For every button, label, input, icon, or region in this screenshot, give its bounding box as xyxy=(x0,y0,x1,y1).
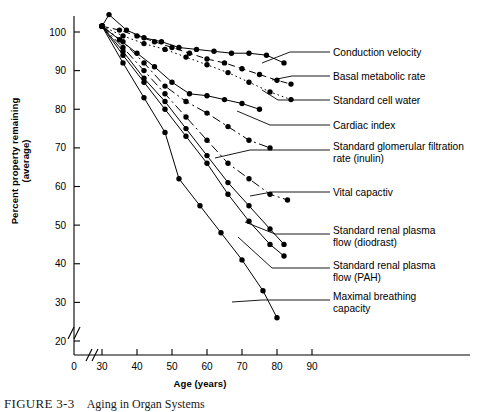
x-tick-label: 60 xyxy=(201,361,213,372)
series-leader-line xyxy=(215,150,330,158)
series-line xyxy=(102,26,284,244)
series-4 xyxy=(99,24,272,151)
series-label: Cardiac index xyxy=(333,120,395,131)
series-label: Maximal breathingcapacity xyxy=(333,291,417,315)
data-point xyxy=(239,66,244,71)
data-point xyxy=(120,39,125,44)
data-point xyxy=(246,203,251,208)
data-point xyxy=(169,80,174,85)
series-label: Standard renal plasmaflow (diodrast) xyxy=(333,225,436,249)
data-point xyxy=(239,257,244,262)
data-point xyxy=(204,62,209,67)
data-point xyxy=(211,49,216,54)
data-point xyxy=(183,126,188,131)
series-label: Vital capactiv xyxy=(333,187,394,198)
data-point xyxy=(267,242,272,247)
data-point xyxy=(225,192,230,197)
series-leader-line xyxy=(250,192,330,196)
y-axis-title: Percent property remaining (average) xyxy=(9,96,31,226)
data-point xyxy=(222,97,227,102)
data-point xyxy=(99,24,104,29)
series-leader-line xyxy=(238,237,330,268)
series-6 xyxy=(99,24,286,248)
data-point xyxy=(225,124,230,129)
data-point xyxy=(187,91,192,96)
x-tick-label: 40 xyxy=(131,361,143,372)
data-point xyxy=(162,91,167,96)
y-tick-label: 70 xyxy=(55,142,67,153)
y-tick-label: 100 xyxy=(49,27,66,38)
data-point xyxy=(141,68,146,73)
data-point xyxy=(162,99,167,104)
figure-caption-label: FIGURE 3-3 xyxy=(4,396,75,411)
series-leader-line xyxy=(272,76,330,80)
data-point xyxy=(281,60,286,65)
data-point xyxy=(152,39,157,44)
data-point xyxy=(141,35,146,40)
x-tick-label: 70 xyxy=(236,361,248,372)
x-tick-label: 80 xyxy=(271,361,283,372)
data-point xyxy=(204,93,209,98)
series-line xyxy=(102,15,284,63)
y-tick-label: 80 xyxy=(55,104,67,115)
data-point xyxy=(183,54,188,59)
data-point xyxy=(246,80,251,85)
data-point xyxy=(274,315,279,320)
series-label: Standard glomerular filtrationrate (inul… xyxy=(333,141,464,165)
data-point xyxy=(225,180,230,185)
data-point xyxy=(141,41,146,46)
series-line xyxy=(102,26,288,200)
data-point xyxy=(176,176,181,181)
data-point xyxy=(257,72,262,77)
data-point xyxy=(246,51,251,56)
data-point xyxy=(285,197,290,202)
data-point xyxy=(183,99,188,104)
data-point xyxy=(183,114,188,119)
data-point xyxy=(246,219,251,224)
data-point xyxy=(162,47,167,52)
data-point xyxy=(197,203,202,208)
data-point xyxy=(169,45,174,50)
data-point xyxy=(204,161,209,166)
data-point xyxy=(204,138,209,143)
data-point xyxy=(229,51,234,56)
figure-caption: FIGURE 3-3 Aging in Organ Systems xyxy=(4,396,205,412)
data-point xyxy=(281,242,286,247)
y-tick-label: 20 xyxy=(55,336,67,347)
x-tick-label: 0 xyxy=(71,361,77,372)
x-tick-label: 90 xyxy=(306,361,318,372)
data-point xyxy=(141,95,146,100)
x-tick-label: 50 xyxy=(166,361,178,372)
data-point xyxy=(141,60,146,65)
data-point xyxy=(288,81,293,86)
data-point xyxy=(225,70,230,75)
data-point xyxy=(239,101,244,106)
data-point xyxy=(225,161,230,166)
x-tick-label: 30 xyxy=(96,361,108,372)
series-7 xyxy=(99,24,286,259)
series-label: Standard cell water xyxy=(333,95,421,106)
x-axis-title: Age (years) xyxy=(120,378,280,389)
data-point xyxy=(246,138,251,143)
series-leader-line xyxy=(245,222,330,234)
y-tick-label: 40 xyxy=(55,258,67,269)
y-tick-label: 30 xyxy=(55,297,67,308)
data-point xyxy=(204,110,209,115)
data-point xyxy=(152,64,157,69)
data-point xyxy=(117,27,122,32)
data-point xyxy=(281,253,286,258)
data-point xyxy=(194,47,199,52)
series-label: Basal metabolic rate xyxy=(333,71,426,82)
data-point xyxy=(141,80,146,85)
figure-caption-text: Aging in Organ Systems xyxy=(87,397,205,411)
data-point xyxy=(204,153,209,158)
y-tick-label: 60 xyxy=(55,181,67,192)
series-leader-line xyxy=(232,300,330,302)
data-point xyxy=(260,288,265,293)
data-point xyxy=(246,176,251,181)
series-8 xyxy=(99,24,279,321)
series-label: Conduction velocity xyxy=(333,47,422,58)
series-line xyxy=(102,26,284,256)
data-point xyxy=(106,12,111,17)
